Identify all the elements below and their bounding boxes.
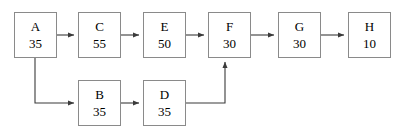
node-label: F	[226, 20, 233, 34]
node-label: C	[95, 20, 104, 34]
node-e[interactable]: E50	[143, 12, 186, 58]
node-label: H	[365, 20, 374, 34]
node-value: 10	[363, 37, 376, 51]
node-a[interactable]: A35	[14, 12, 57, 58]
node-h[interactable]: H10	[348, 12, 391, 58]
node-value: 30	[293, 37, 306, 51]
node-value: 35	[29, 37, 42, 51]
node-d[interactable]: D35	[143, 80, 186, 126]
node-label: E	[161, 20, 169, 34]
node-value: 35	[93, 105, 106, 119]
node-value: 30	[223, 37, 236, 51]
flow-diagram: A35C55E50F30G30H10B35D35	[0, 0, 398, 136]
edge-d-f	[186, 62, 225, 103]
node-value: 50	[158, 37, 171, 51]
node-g[interactable]: G30	[278, 12, 321, 58]
node-value: 35	[158, 105, 171, 119]
node-label: A	[31, 20, 40, 34]
node-value: 55	[93, 37, 106, 51]
node-label: B	[95, 88, 104, 102]
node-b[interactable]: B35	[78, 80, 121, 126]
node-label: D	[160, 88, 169, 102]
node-c[interactable]: C55	[78, 12, 121, 58]
node-f[interactable]: F30	[208, 12, 251, 58]
node-label: G	[295, 20, 304, 34]
edge-layer	[0, 0, 398, 136]
edge-a-b	[35, 58, 74, 103]
